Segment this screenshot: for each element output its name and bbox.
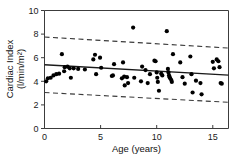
data-point [68, 66, 72, 70]
x-axis-title-text: Age (years) [112, 143, 161, 154]
data-point [199, 92, 203, 96]
data-point [83, 67, 87, 71]
data-point [139, 79, 143, 83]
data-point [160, 73, 164, 77]
x-tick-label-5: 5 [98, 132, 103, 142]
data-point [166, 67, 170, 71]
x-axis-tick-labels: 051015 [42, 132, 218, 142]
data-point [62, 69, 66, 73]
data-point [178, 60, 182, 64]
data-point [76, 67, 80, 71]
data-point [146, 81, 150, 85]
y-tick-label-4: 4 [33, 77, 38, 87]
data-point [131, 26, 135, 30]
data-point [60, 52, 64, 56]
data-point [211, 60, 215, 64]
data-point [183, 82, 187, 86]
data-point [148, 72, 152, 76]
data-point [111, 73, 115, 77]
data-point [194, 79, 198, 83]
data-point [93, 53, 97, 57]
data-point [157, 89, 161, 93]
data-point [94, 72, 98, 76]
regression-line [45, 65, 229, 75]
data-point [91, 57, 95, 61]
y-tick-label-6: 6 [33, 53, 38, 63]
data-point [153, 59, 157, 63]
data-point [212, 66, 216, 70]
data-point [140, 64, 144, 68]
y-tick-label-0: 0 [33, 124, 38, 134]
y-axis-tick-labels: 0246810 [28, 6, 38, 134]
data-point [180, 75, 184, 79]
data-point [217, 65, 221, 69]
data-point [191, 90, 195, 94]
data-point [155, 76, 159, 80]
cardiac-index-scatter-figure: 051015 0246810 Age (years) Cardiac Index… [0, 0, 236, 168]
data-point [69, 76, 73, 80]
data-point [198, 81, 202, 85]
data-points [44, 26, 224, 97]
data-point [126, 81, 130, 85]
data-point [216, 59, 220, 63]
data-point [98, 56, 102, 60]
data-point [132, 76, 136, 80]
data-point [170, 80, 174, 84]
data-point [165, 29, 169, 33]
data-point [155, 70, 159, 74]
y-axis-title-text: Cardiac Index [4, 39, 15, 98]
y-tick-label-10: 10 [28, 6, 38, 16]
chart-canvas: 051015 0246810 Age (years) Cardiac Index… [0, 0, 236, 168]
x-tick-label-0: 0 [42, 132, 47, 142]
data-point [57, 72, 61, 76]
regression-trend-line [45, 65, 229, 75]
x-axis-ticks [45, 125, 213, 129]
y-tick-label-2: 2 [33, 100, 38, 110]
data-point [112, 62, 116, 66]
upper-confidence-line [45, 37, 229, 48]
x-tick-label-15: 15 [208, 132, 218, 142]
data-point [171, 52, 175, 56]
x-axis-title: Age (years) [112, 143, 161, 154]
data-point [121, 60, 125, 64]
data-point [220, 82, 224, 86]
y-axis-ticks [41, 11, 45, 129]
data-point [143, 68, 147, 72]
data-point [188, 54, 192, 58]
data-point [72, 66, 76, 70]
x-tick-label-10: 10 [152, 132, 162, 142]
data-point [99, 66, 103, 70]
y-tick-label-8: 8 [33, 29, 38, 39]
y-axis-title: Cardiac Index(l/min/m²) [4, 39, 26, 98]
data-point [156, 80, 160, 84]
data-point [189, 72, 193, 76]
data-point [125, 75, 129, 79]
y-axis-units-text: (l/min/m²) [15, 49, 26, 89]
